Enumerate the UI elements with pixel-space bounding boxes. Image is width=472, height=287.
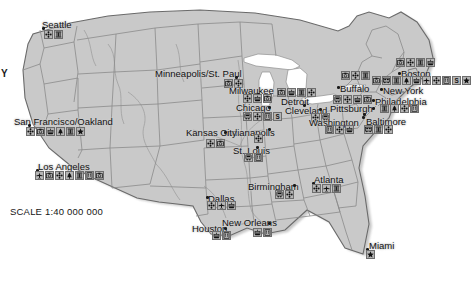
city-label-new-york[interactable]: New York <box>383 86 423 96</box>
bus-icon[interactable] <box>364 125 373 134</box>
airplane-icon[interactable] <box>422 76 431 85</box>
airplane-icon[interactable] <box>35 171 44 180</box>
flower-icon[interactable] <box>351 71 360 80</box>
star-icon[interactable] <box>462 76 471 85</box>
camera-icon[interactable] <box>95 171 104 180</box>
amenity-icons-detroit <box>277 88 316 97</box>
flower-icon[interactable] <box>406 58 415 67</box>
camera-icon[interactable] <box>372 76 381 85</box>
flower-icon[interactable] <box>312 184 321 193</box>
flower-icon[interactable] <box>206 139 215 148</box>
city-label-pittsburgh[interactable]: Pittsburgh <box>330 104 373 114</box>
airplane-icon[interactable] <box>322 184 331 193</box>
city-label-minneapolis-st-paul[interactable]: Minneapolis/St. Paul <box>155 69 242 79</box>
letter-s-icon[interactable]: S <box>273 112 282 121</box>
city-dot-boston <box>398 72 401 75</box>
city-dot-buffalo <box>337 86 340 89</box>
city-label-buffalo[interactable]: Buffalo <box>340 84 369 94</box>
boat-icon[interactable] <box>46 127 55 136</box>
boat-icon[interactable] <box>212 231 221 240</box>
amenity-icons-dallas <box>207 201 236 210</box>
star-icon[interactable] <box>76 127 85 136</box>
monument-icon[interactable] <box>75 171 84 180</box>
train-icon[interactable] <box>333 95 342 104</box>
boat-icon[interactable] <box>287 88 296 97</box>
amenity-icons-boston <box>396 58 435 67</box>
boat-icon[interactable] <box>426 58 435 67</box>
boat-icon[interactable] <box>353 95 362 104</box>
camera-icon[interactable] <box>36 127 45 136</box>
train-icon[interactable] <box>243 112 252 121</box>
building-icon[interactable] <box>263 112 272 121</box>
monument-icon[interactable] <box>54 30 63 39</box>
flower-icon[interactable] <box>307 88 316 97</box>
amenity-icons-birmingham <box>275 190 294 199</box>
building-icon[interactable] <box>263 228 272 237</box>
building-icon[interactable] <box>85 171 94 180</box>
flower-icon[interactable] <box>384 125 393 134</box>
flower-icon[interactable] <box>44 30 53 39</box>
train-icon[interactable] <box>275 190 284 199</box>
monument-icon[interactable] <box>361 71 370 80</box>
flower-icon[interactable] <box>254 134 263 143</box>
amenity-icons-houston <box>212 231 231 240</box>
amenity-icons-washington <box>325 125 354 134</box>
amenity-icons-kansas-city <box>206 139 225 148</box>
tree-icon[interactable] <box>56 127 65 136</box>
flower-icon[interactable] <box>285 190 294 199</box>
city-label-seattle[interactable]: Seattle <box>42 20 72 30</box>
city-dot-kansas-city <box>224 131 227 134</box>
city-label-kansas-city[interactable]: Kansas City <box>186 128 237 138</box>
letter-s-icon[interactable]: S <box>452 76 461 85</box>
flower-icon[interactable] <box>26 127 35 136</box>
boat-icon[interactable] <box>227 201 236 210</box>
scale-label: SCALE 1:40 000 000 <box>10 206 103 217</box>
camera-icon[interactable] <box>396 58 405 67</box>
boat-icon[interactable] <box>412 76 421 85</box>
amenity-icons-new-york: S <box>372 76 471 85</box>
tree-icon[interactable] <box>390 104 399 113</box>
tree-icon[interactable] <box>65 171 74 180</box>
monument-icon[interactable] <box>332 184 341 193</box>
camera-icon[interactable] <box>45 171 54 180</box>
flower-icon[interactable] <box>55 171 64 180</box>
monument-icon[interactable] <box>392 76 401 85</box>
monument-icon[interactable] <box>66 127 75 136</box>
bus-icon[interactable] <box>382 76 391 85</box>
city-dot-washington <box>362 116 365 119</box>
boat-icon[interactable] <box>345 125 354 134</box>
building-icon[interactable] <box>442 76 451 85</box>
flower-icon[interactable] <box>400 104 409 113</box>
tree-icon[interactable] <box>402 76 411 85</box>
airplane-icon[interactable] <box>217 201 226 210</box>
building-icon[interactable] <box>325 125 334 134</box>
svg-text:S: S <box>454 77 458 84</box>
flower-icon[interactable] <box>343 95 352 104</box>
monument-icon[interactable] <box>380 104 389 113</box>
camera-icon[interactable] <box>277 88 286 97</box>
city-dot-dallas <box>206 196 209 199</box>
amenity-icons-new-orleans <box>253 228 272 237</box>
flower-icon[interactable] <box>432 76 441 85</box>
amenity-icons-buffalo <box>341 71 370 80</box>
city-dot-pittsburgh <box>372 107 375 110</box>
train-icon[interactable] <box>244 153 253 162</box>
flower-icon[interactable] <box>335 125 344 134</box>
amenity-icons-seattle <box>44 30 63 39</box>
monument-icon[interactable] <box>297 88 306 97</box>
camera-icon[interactable] <box>341 71 350 80</box>
monument-icon[interactable] <box>374 125 383 134</box>
building-icon[interactable] <box>254 153 263 162</box>
flower-icon[interactable] <box>207 201 216 210</box>
monument-icon[interactable] <box>416 58 425 67</box>
building-icon[interactable] <box>222 231 231 240</box>
camera-icon[interactable] <box>216 139 225 148</box>
city-dot-indianapolis <box>268 128 271 131</box>
building-icon[interactable] <box>410 104 419 113</box>
boat-icon[interactable] <box>253 228 262 237</box>
camera-icon[interactable] <box>363 95 372 104</box>
city-dot-new-york <box>380 88 383 91</box>
star-icon[interactable] <box>366 250 375 259</box>
flower-icon[interactable] <box>253 112 262 121</box>
amenity-icons-indianapolis <box>254 134 263 143</box>
